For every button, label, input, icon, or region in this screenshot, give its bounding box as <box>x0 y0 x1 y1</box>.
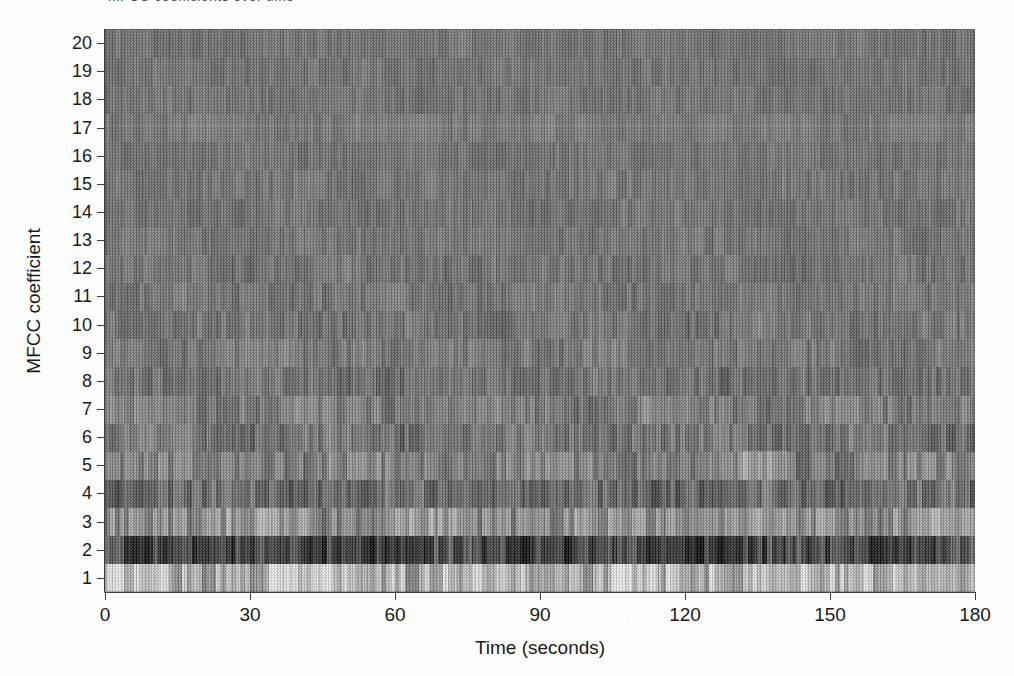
y-tick-label-16: 16 <box>50 147 92 165</box>
y-tick-1 <box>97 578 104 579</box>
y-tick-label-wrap-11: 11 <box>44 287 92 305</box>
x-tick-label-60: 60 <box>355 604 435 626</box>
y-tick-label-3: 3 <box>50 513 92 531</box>
heatmap-row-15 <box>105 170 975 199</box>
heatmap-row-10 <box>105 311 975 340</box>
heatmap-row-6 <box>105 423 975 452</box>
x-tick-label-120: 120 <box>645 604 725 626</box>
heatmap-row-16 <box>105 142 975 171</box>
heatmap-row-9-fine-stripes <box>105 339 975 368</box>
y-tick-label-17: 17 <box>50 119 92 137</box>
heatmap-row-16-fine-stripes <box>105 142 975 171</box>
y-tick-label-wrap-19: 19 <box>44 62 92 80</box>
mfcc-heatmap <box>105 29 975 592</box>
y-tick-label-wrap-20: 20 <box>44 34 92 52</box>
y-tick-label-wrap-3: 3 <box>44 513 92 531</box>
y-tick-label-11: 11 <box>50 287 92 305</box>
y-tick-7 <box>97 409 104 410</box>
y-tick-label-1: 1 <box>50 569 92 587</box>
y-tick-label-wrap-8: 8 <box>44 372 92 390</box>
y-tick-13 <box>97 240 104 241</box>
y-tick-19 <box>97 71 104 72</box>
y-tick-10 <box>97 325 104 326</box>
y-tick-label-20: 20 <box>50 34 92 52</box>
y-tick-label-wrap-16: 16 <box>44 147 92 165</box>
figure-page: MFCC coefficients over time 123456789101… <box>0 0 1014 676</box>
heatmap-row-3-fine-stripes <box>105 508 975 537</box>
y-tick-label-wrap-17: 17 <box>44 119 92 137</box>
heatmap-row-13-fine-stripes <box>105 226 975 255</box>
y-tick-label-wrap-6: 6 <box>44 428 92 446</box>
heatmap-annotation-1 <box>907 564 955 592</box>
heatmap-row-1-fine-stripes <box>105 564 975 592</box>
heatmap-row-4 <box>105 479 975 508</box>
y-tick-label-wrap-9: 9 <box>44 344 92 362</box>
x-tick-label-0: 0 <box>65 604 145 626</box>
y-tick-label-14: 14 <box>50 203 92 221</box>
heatmap-row-2-fine-stripes <box>105 536 975 565</box>
heatmap-row-5 <box>105 451 975 480</box>
heatmap-row-6-fine-stripes <box>105 423 975 452</box>
y-tick-9 <box>97 353 104 354</box>
heatmap-row-8 <box>105 367 975 396</box>
y-tick-label-12: 12 <box>50 259 92 277</box>
y-tick-label-wrap-15: 15 <box>44 175 92 193</box>
heatmap-annotation-0 <box>743 564 791 592</box>
heatmap-annotation-3 <box>743 451 787 480</box>
y-tick-label-15: 15 <box>50 175 92 193</box>
heatmap-row-12 <box>105 254 975 283</box>
x-tick-60 <box>395 593 396 600</box>
y-tick-16 <box>97 156 104 157</box>
y-tick-label-13: 13 <box>50 231 92 249</box>
heatmap-row-7 <box>105 395 975 424</box>
x-tick-180 <box>975 593 976 600</box>
heatmap-row-2 <box>105 536 975 565</box>
heatmap-row-14-fine-stripes <box>105 198 975 227</box>
y-tick-8 <box>97 381 104 382</box>
heatmap-row-17-fine-stripes <box>105 113 975 142</box>
x-axis-label: Time (seconds) <box>105 637 975 659</box>
heatmap-row-12-fine-stripes <box>105 254 975 283</box>
x-tick-90 <box>540 593 541 600</box>
y-tick-label-8: 8 <box>50 372 92 390</box>
y-tick-label-10: 10 <box>50 316 92 334</box>
y-tick-14 <box>97 212 104 213</box>
x-tick-120 <box>685 593 686 600</box>
y-tick-label-6: 6 <box>50 428 92 446</box>
x-tick-label-30: 30 <box>210 604 290 626</box>
y-tick-17 <box>97 128 104 129</box>
x-tick-150 <box>830 593 831 600</box>
y-tick-label-wrap-5: 5 <box>44 456 92 474</box>
y-tick-6 <box>97 437 104 438</box>
heatmap-row-5-fine-stripes <box>105 451 975 480</box>
heatmap-row-17 <box>105 113 975 142</box>
y-tick-label-wrap-13: 13 <box>44 231 92 249</box>
heatmap-annotation-2 <box>637 536 705 565</box>
y-axis-label: MFCC coefficient <box>23 151 45 451</box>
y-tick-15 <box>97 184 104 185</box>
heatmap-row-1 <box>105 564 975 592</box>
heatmap-row-11 <box>105 282 975 311</box>
y-tick-11 <box>97 296 104 297</box>
y-tick-label-wrap-1: 1 <box>44 569 92 587</box>
y-tick-label-wrap-7: 7 <box>44 400 92 418</box>
heatmap-row-19-fine-stripes <box>105 57 975 86</box>
y-tick-18 <box>97 99 104 100</box>
heatmap-row-13 <box>105 226 975 255</box>
heatmap-row-20-fine-stripes <box>105 29 975 58</box>
y-tick-3 <box>97 522 104 523</box>
x-tick-0 <box>105 593 106 600</box>
heatmap-row-9 <box>105 339 975 368</box>
heatmap-row-20 <box>105 29 975 58</box>
x-tick-30 <box>250 593 251 600</box>
y-tick-20 <box>97 43 104 44</box>
heatmap-row-8-fine-stripes <box>105 367 975 396</box>
heatmap-row-7-fine-stripes <box>105 395 975 424</box>
heatmap-row-11-fine-stripes <box>105 282 975 311</box>
x-tick-label-150: 150 <box>790 604 870 626</box>
y-tick-label-7: 7 <box>50 400 92 418</box>
clipped-caption-text: MFCC coefficients over time <box>108 0 728 2</box>
y-tick-label-wrap-4: 4 <box>44 484 92 502</box>
y-tick-label-wrap-2: 2 <box>44 541 92 559</box>
x-tick-label-90: 90 <box>500 604 580 626</box>
